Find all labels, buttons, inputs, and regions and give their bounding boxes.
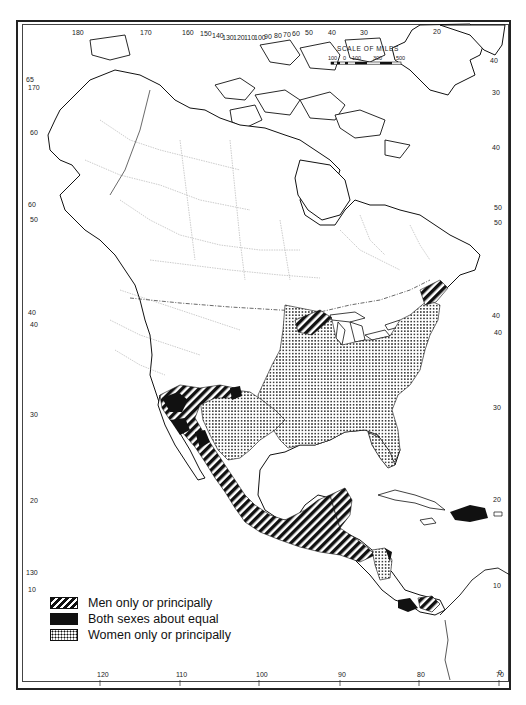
cuba xyxy=(378,490,445,510)
svg-text:20: 20 xyxy=(433,28,441,35)
svg-text:70: 70 xyxy=(283,31,291,38)
svg-text:90: 90 xyxy=(338,671,346,678)
svg-text:40: 40 xyxy=(492,312,500,319)
puerto-rico xyxy=(494,512,502,516)
svg-text:40: 40 xyxy=(492,144,500,151)
svg-text:60: 60 xyxy=(292,30,300,37)
svg-text:50: 50 xyxy=(494,204,502,211)
hatch-pattern-swatch xyxy=(50,597,78,609)
svg-text:40: 40 xyxy=(28,309,36,316)
svg-text:80: 80 xyxy=(274,32,282,39)
hispaniola xyxy=(450,505,488,522)
svg-text:130: 130 xyxy=(26,569,38,576)
legend-label-women: Women only or principally xyxy=(88,628,231,642)
legend-item-women: Women only or principally xyxy=(50,627,231,643)
top-longitude-labels: 180 170 160 150 140 130 120 110 100 90 8… xyxy=(72,28,441,41)
svg-text:80: 80 xyxy=(417,671,425,678)
svg-text:50: 50 xyxy=(305,29,313,36)
svg-text:65: 65 xyxy=(26,76,34,83)
scale-bar-title: SCALE OF MILES xyxy=(337,45,399,52)
svg-text:40: 40 xyxy=(328,29,336,36)
svg-text:160: 160 xyxy=(182,29,194,36)
left-latitude-labels: 65 170 60 60 50 40 40 30 20 130 10 xyxy=(26,76,40,593)
svg-text:0: 0 xyxy=(498,669,502,676)
legend-label-both: Both sexes about equal xyxy=(88,612,219,626)
legend-item-men: Men only or principally xyxy=(50,595,231,611)
legend-label-men: Men only or principally xyxy=(88,596,212,610)
svg-text:90: 90 xyxy=(264,33,272,40)
scale-tick-300: 300 xyxy=(373,55,382,61)
dot-pattern-swatch xyxy=(50,629,78,641)
solid-pattern-swatch xyxy=(50,613,78,625)
svg-text:40: 40 xyxy=(494,329,502,336)
svg-text:30: 30 xyxy=(30,411,38,418)
svg-text:50: 50 xyxy=(494,219,502,226)
svg-text:40: 40 xyxy=(30,321,38,328)
svg-text:30: 30 xyxy=(360,29,368,36)
scale-tick-100: 100 xyxy=(352,55,361,61)
scale-tick-500: 500 xyxy=(396,55,405,61)
svg-text:170: 170 xyxy=(28,84,40,91)
svg-text:20: 20 xyxy=(493,496,501,503)
bottom-longitude-labels: 120 110 100 90 80 70 xyxy=(97,671,504,678)
right-latitude-labels: 40 30 40 50 50 40 40 30 20 10 0 xyxy=(490,57,502,676)
south-america-coast xyxy=(440,568,510,615)
bottom-tick-marks xyxy=(100,680,499,686)
svg-text:60: 60 xyxy=(28,201,36,208)
svg-text:40: 40 xyxy=(490,57,498,64)
svg-text:170: 170 xyxy=(140,29,152,36)
svg-text:100: 100 xyxy=(256,671,268,678)
svg-text:30: 30 xyxy=(493,404,501,411)
svg-text:120: 120 xyxy=(97,671,109,678)
svg-text:10: 10 xyxy=(493,582,501,589)
jamaica xyxy=(420,518,436,525)
svg-text:10: 10 xyxy=(28,586,36,593)
svg-text:60: 60 xyxy=(30,129,38,136)
scale-tick-0: 0 xyxy=(343,55,346,61)
svg-text:20: 20 xyxy=(30,497,38,504)
svg-text:50: 50 xyxy=(30,216,38,223)
svg-text:110: 110 xyxy=(176,671,187,678)
map-legend: Men only or principally Both sexes about… xyxy=(50,595,231,643)
svg-text:180: 180 xyxy=(72,29,84,36)
svg-text:30: 30 xyxy=(492,89,500,96)
scale-tick-100-left: 100 xyxy=(328,55,337,61)
south-america-river xyxy=(445,620,450,680)
legend-item-both: Both sexes about equal xyxy=(50,611,231,627)
svg-text:150: 150 xyxy=(200,30,212,37)
